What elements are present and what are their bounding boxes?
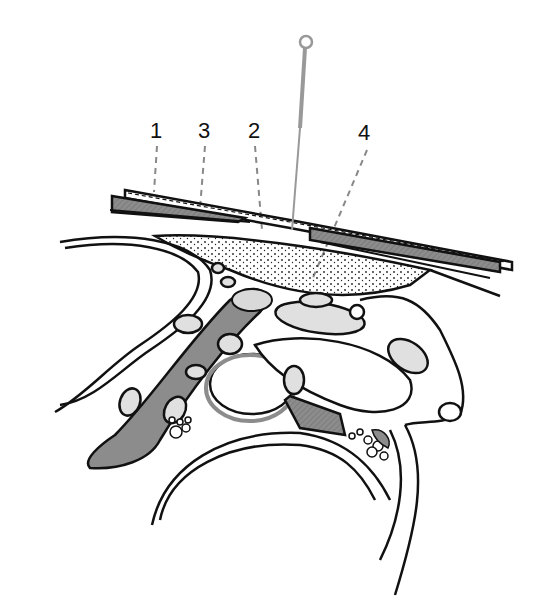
label-2: 2 xyxy=(248,120,260,142)
label-4: 4 xyxy=(358,122,370,144)
label-1: 1 xyxy=(150,120,162,142)
label-3: 3 xyxy=(198,120,210,142)
vessel-cluster xyxy=(169,417,389,460)
leader-line-1 xyxy=(154,146,157,192)
anatomy-drawing xyxy=(0,0,552,616)
leader-line-3 xyxy=(200,146,205,208)
anatomical-figure: 1 3 2 4 xyxy=(0,0,552,616)
acupuncture-needle xyxy=(292,36,312,230)
